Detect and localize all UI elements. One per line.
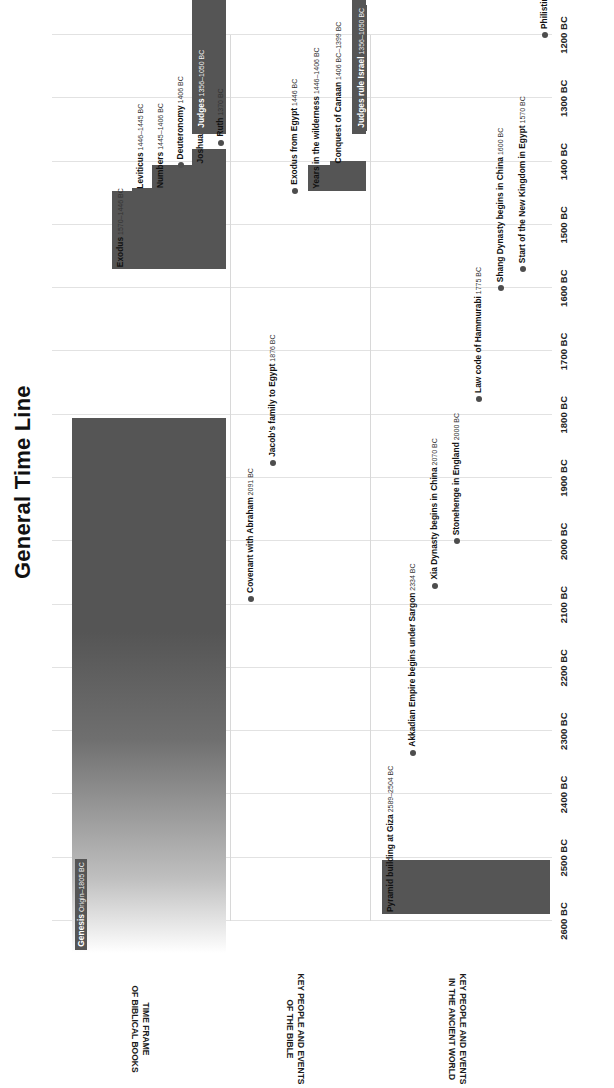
timeline-item-label: Judges 1356–1050 BC (195, 47, 207, 131)
timeline-item-range: 1445–1406 BC (157, 103, 164, 152)
x-axis-tick-label: 1400 BC (558, 143, 569, 181)
timeline-item-label: Shang Dynasty begins in China 1600 BC (495, 128, 505, 282)
x-axis-tick-label: 2500 BC (558, 839, 569, 877)
timeline-item-label: Philistines arrive in SW Canaan 1200 BC (539, 0, 549, 29)
lane-label-key-people-and-events-of-the-bible: KEY PEOPLE AND EVENTS OF THE BIBLE (285, 954, 306, 1088)
timeline-item-label: Leviticus 1446–1445 BC (135, 104, 145, 189)
timeline-item-label: Ruth 1370 BC (215, 88, 225, 136)
timeline-item-range: 2334 BC (409, 563, 416, 592)
timeline-item-name: Genesis (76, 914, 86, 947)
timeline-item-range: 2589–2504 BC (387, 766, 394, 815)
timeline-item-range: 1370 BC (217, 88, 224, 117)
timeline-item-name: Ruth (215, 118, 225, 137)
timeline-item-range: 2070 BC (431, 438, 438, 467)
timeline-item-name: Philistines arrive in SW Canaan (539, 0, 549, 29)
timeline-item-label: Xia Dynasty begins in China 2070 BC (429, 438, 439, 579)
timeline-dot[interactable] (248, 596, 254, 602)
timeline-item-range: 2000 BC (453, 413, 460, 442)
page-title: General Time Line (10, 385, 36, 579)
x-axis-tick-label: 1800 BC (558, 396, 569, 434)
timeline-item-name: Conquest of Canaan (333, 82, 343, 163)
timeline-item-name: Joshua (195, 134, 205, 163)
timeline-item-name: Years in the wilderness (311, 96, 321, 189)
timeline-item-name: Jacob's family to Egypt (267, 364, 277, 457)
timeline-item-range: 1446–1406 BC (313, 47, 320, 96)
timeline-item-name: Numbers (155, 152, 165, 188)
timeline-item-name: Akkadian Empire begins under Sargon (407, 593, 417, 747)
lane-label-time-frame-of-biblical-books: TIME FRAME OF BIBLICAL BOOKS (130, 954, 151, 1088)
timeline-item-label: Genesis Origin–1805 BC (75, 859, 87, 949)
timeline-dot[interactable] (432, 583, 438, 589)
timeline-item-label: Deuteronomy 1406 BC (175, 76, 185, 159)
timeline-dot[interactable] (218, 140, 224, 146)
timeline-item-range: 1446 BC (291, 79, 298, 108)
timeline-item-range: 1775 BC (475, 267, 482, 296)
timeline-item-label: Exodus 1570–1446 BC (115, 188, 125, 267)
timeline-dot[interactable] (410, 750, 416, 756)
timeline-dot[interactable] (454, 538, 460, 544)
x-axis-tick-label: 2100 BC (558, 586, 569, 624)
timeline-item-range: 1406 BC (177, 76, 184, 105)
timeline-dot[interactable] (178, 162, 184, 168)
timeline-item-range: 1356–1050 BC (358, 8, 365, 57)
x-axis-tick-label: 1600 BC (558, 269, 569, 307)
timeline-item-name: Start of the New Kingdom in Egypt (517, 125, 527, 263)
x-axis-tick-label: 2400 BC (558, 776, 569, 814)
timeline-item-name: Law code of Hammurabi (473, 296, 483, 393)
timeline-item-name: Covenant with Abraham (245, 497, 255, 593)
timeline-item-name: Exodus from Egypt (289, 108, 299, 185)
timeline-dot[interactable] (270, 460, 276, 466)
timeline-item-name: Xia Dynasty begins in China (429, 467, 439, 579)
timeline-item-label: Jacob's family to Egypt 1876 BC (267, 334, 277, 456)
timeline-bar[interactable] (72, 418, 226, 953)
x-axis-tick-label: 1500 BC (558, 206, 569, 244)
timeline-item-name: Exodus (115, 237, 125, 267)
x-axis-tick-label: 1700 BC (558, 333, 569, 371)
timeline-item-label: Law code of Hammurabi 1775 BC (473, 267, 483, 393)
timeline-item-name: Stonehenge in England (451, 442, 461, 535)
x-axis-tick-label: 2300 BC (558, 712, 569, 750)
timeline-item-label: Judges rule Israel 1356–1050 BC (355, 5, 367, 131)
timeline-item-label: Conquest of Canaan 1406 BC–1399 BC (333, 22, 343, 164)
timeline-item-name: Judges rule Israel (356, 57, 366, 128)
timeline-bar[interactable] (112, 191, 226, 269)
timeline-bar[interactable] (382, 860, 550, 914)
timeline-item-label: Numbers 1445–1406 BC (155, 103, 165, 188)
timeline-item-label: Years in the wilderness 1446–1406 BC (311, 47, 321, 188)
timeline-item-range: 1446–1445 BC (137, 104, 144, 153)
timeline-item-name: Judges (196, 98, 206, 127)
x-axis-tick-label: 1300 BC (558, 80, 569, 118)
timeline-dot[interactable] (498, 285, 504, 291)
x-axis-tick-label: 2000 BC (558, 523, 569, 561)
lane-key-people-and-events-in-the-ancient-world: Pyramid building at Giza 2589–2504 BCAkk… (370, 35, 552, 921)
timeline-item-label: Covenant with Abraham 2091 BC (245, 468, 255, 593)
timeline-item-range: 1600 BC (497, 128, 504, 157)
x-axis-tick-label: 2600 BC (558, 902, 569, 940)
timeline-item-label: Start of the New Kingdom in Egypt 1570 B… (517, 96, 527, 263)
timeline-item-label: Pyramid building at Giza 2589–2504 BC (385, 766, 395, 912)
x-axis-tick-label: 1200 BC (558, 16, 569, 54)
timeline-dot[interactable] (542, 32, 548, 38)
timeline-dot[interactable] (520, 266, 526, 272)
lane-time-frame-of-biblical-books: Genesis Origin–1805 BCExodus 1570–1446 B… (60, 35, 228, 921)
timeline-item-range: 1570–1446 BC (117, 188, 124, 237)
lane-label-key-people-and-events-in-the-ancient-world: KEY PEOPLE AND EVENTS IN THE ANCIENT WOR… (447, 954, 468, 1088)
timeline-item-range: 1570 BC (519, 96, 526, 125)
timeline-item-range: 2091 BC (247, 468, 254, 497)
timeline-dot[interactable] (292, 188, 298, 194)
timeline-item-range: 1356–1050 BC (198, 50, 205, 99)
timeline-item-range: 1876 BC (269, 334, 276, 363)
timeline-item-label: Exodus from Egypt 1446 BC (289, 79, 299, 185)
x-axis-tick-label: 1900 BC (558, 459, 569, 497)
timeline-item-label: Akkadian Empire begins under Sargon 2334… (407, 563, 417, 746)
timeline-item-name: Deuteronomy (175, 105, 185, 159)
timeline-item-range: Origin–1805 BC (78, 862, 85, 914)
timeline-item-range: 1406 BC–1399 BC (335, 22, 342, 82)
timeline-item-name: Leviticus (135, 152, 145, 188)
timeline-dot[interactable] (476, 396, 482, 402)
x-axis-tick-label: 2200 BC (558, 649, 569, 687)
timeline-item-name: Pyramid building at Giza (385, 814, 395, 912)
lane-key-people-and-events-of-the-bible: Covenant with Abraham 2091 BCJacob's fam… (230, 35, 368, 921)
plot-area: 2600 BC2500 BC2400 BC2300 BC2200 BC2100 … (52, 35, 552, 921)
